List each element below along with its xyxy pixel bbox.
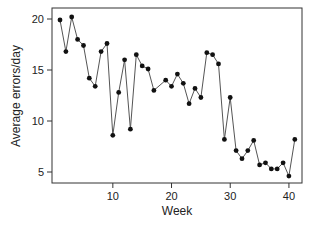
data-point: [245, 148, 250, 153]
data-point: [105, 41, 110, 46]
data-point: [222, 137, 227, 142]
data-point: [175, 72, 180, 77]
series-line: [60, 17, 295, 176]
data-point: [146, 67, 151, 72]
data-point: [152, 88, 157, 93]
y-axis-title: Average errors/day: [9, 45, 23, 147]
y-tick-label: 15: [32, 64, 44, 76]
data-point: [58, 18, 63, 23]
data-point: [134, 52, 139, 57]
data-point: [193, 86, 198, 91]
data-point: [81, 43, 86, 48]
y-axis: 5101520: [32, 13, 52, 178]
y-tick-label: 10: [32, 115, 44, 127]
data-point: [64, 49, 69, 54]
data-point: [93, 84, 98, 89]
x-tick-label: 20: [165, 190, 177, 202]
x-axis-title: Week: [162, 204, 193, 218]
data-point: [269, 167, 274, 172]
data-point: [234, 148, 239, 153]
plot-frame: [52, 8, 302, 183]
data-point: [240, 156, 245, 161]
data-point: [228, 95, 233, 100]
data-markers: [58, 15, 298, 179]
data-point: [122, 57, 127, 62]
data-point: [257, 163, 262, 168]
x-axis: 10203040: [107, 183, 295, 202]
data-point: [275, 167, 280, 172]
data-point: [87, 76, 92, 81]
data-point: [163, 78, 168, 83]
data-point: [99, 49, 104, 54]
line-chart: 5101520 10203040 Week Average errors/day: [0, 0, 320, 227]
x-tick-label: 30: [224, 190, 236, 202]
data-point: [199, 95, 204, 100]
data-point: [216, 62, 221, 67]
data-point: [251, 138, 256, 143]
x-tick-label: 40: [283, 190, 295, 202]
x-tick-label: 10: [107, 190, 119, 202]
y-tick-label: 20: [32, 13, 44, 25]
data-point: [116, 90, 121, 95]
data-point: [263, 160, 268, 165]
data-point: [128, 127, 133, 132]
data-point: [110, 133, 115, 138]
y-tick-label: 5: [38, 166, 44, 178]
data-point: [292, 137, 297, 142]
data-point: [75, 37, 80, 42]
data-point: [140, 64, 145, 69]
data-point: [181, 81, 186, 86]
data-point: [169, 84, 174, 89]
data-point: [204, 50, 209, 55]
data-point: [187, 101, 192, 106]
data-point: [69, 15, 74, 20]
data-point: [281, 160, 286, 165]
data-point: [287, 174, 292, 179]
data-point: [210, 52, 215, 57]
